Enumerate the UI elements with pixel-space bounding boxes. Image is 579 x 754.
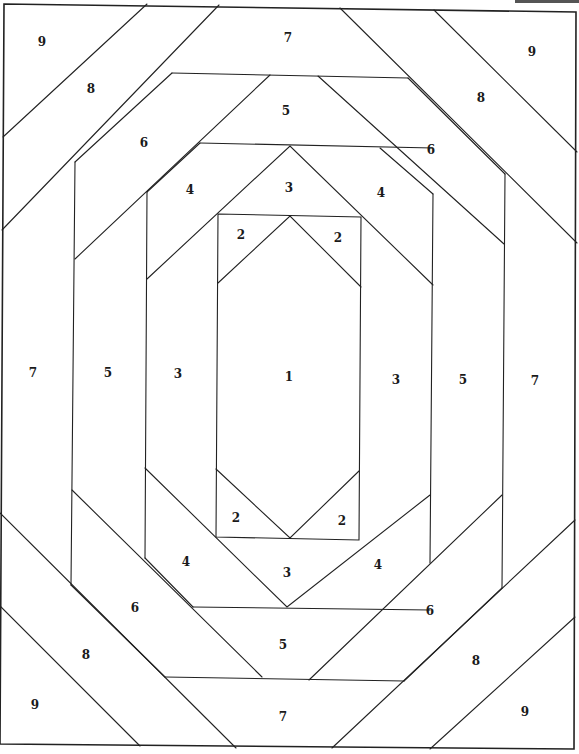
piece-5-right-outer (502, 174, 505, 588)
piece-3-left-outer (145, 192, 147, 558)
piece-3-bottom-label: 3 (283, 566, 291, 580)
piece-5-top-label: 5 (282, 104, 290, 118)
piece-9-bottom-right-label: 9 (521, 705, 529, 719)
piece-8-top-left-label: 8 (87, 82, 95, 96)
piece-6-bottom-right-label: 6 (426, 604, 434, 618)
piece-4-bottom-left-label: 4 (182, 555, 190, 569)
piece-4-top-left-label: 4 (186, 183, 194, 197)
band-7-bottom-base (165, 677, 404, 681)
piece-6-top-right-outer (340, 8, 577, 243)
piece-6-bottom-left-inner (71, 585, 165, 677)
piece-6-bottom-left-label: 6 (131, 601, 139, 615)
piece-9-top-right-seam (434, 10, 577, 152)
piece-9-top-left-seam (3, 4, 147, 137)
piece-9-bottom-left-label: 9 (31, 698, 39, 712)
piece-6-top-right-label: 6 (427, 143, 435, 157)
piece-6-bottom-right-inner (404, 588, 502, 681)
piece-7-bottom-label: 7 (279, 710, 287, 724)
piece-9-top-right-label: 9 (528, 45, 536, 59)
band-5-top-base (200, 143, 433, 148)
piece-9-top-left-label: 9 (38, 35, 46, 49)
piece-4-top-right-label: 4 (377, 186, 385, 200)
piece-7-left-label: 7 (29, 366, 37, 380)
band-5-bottom-base (193, 607, 430, 610)
piece-5-left-outer (71, 162, 75, 585)
piece-3-top-label: 3 (285, 181, 293, 195)
piece-2-top-right-label: 2 (334, 231, 342, 245)
piece-5-left-label: 5 (104, 366, 112, 380)
piece-4-bottom-right-label: 4 (374, 558, 382, 572)
piece-2-top-seam (218, 216, 361, 287)
piece-4-top-right-seam (380, 148, 433, 194)
piece-7-top-label: 7 (284, 31, 292, 45)
piece-2-bottom-left-label: 2 (232, 511, 240, 525)
piece-3-left-label: 3 (174, 367, 182, 381)
piece-6-top-left-label: 6 (140, 136, 148, 150)
piece-6-top-right-inner (408, 78, 505, 174)
quilt-pattern-diagram: 122223333444455556666777788889999 (0, 0, 579, 754)
piece-2-top-left-label: 2 (237, 228, 245, 242)
piece-5-right-label: 5 (459, 373, 467, 387)
piece-1-center-label: 1 (285, 370, 293, 384)
piece-8-bottom-left-label: 8 (82, 648, 90, 662)
piece-8-top-right-label: 8 (477, 91, 485, 105)
piece-3-right-outer (430, 194, 433, 563)
band-7-top-base (172, 73, 408, 78)
piece-9-bottom-left-seam (0, 606, 140, 746)
piece-5-bottom-label: 5 (279, 638, 287, 652)
piece-9-bottom-right-seam (430, 617, 575, 749)
piece-2-bottom-right-label: 2 (338, 514, 346, 528)
piece-3-right-label: 3 (392, 373, 400, 387)
piece-7-right-label: 7 (531, 374, 539, 388)
piece-8-bottom-right-label: 8 (472, 654, 480, 668)
piece-3-bottom-seam (145, 468, 430, 607)
